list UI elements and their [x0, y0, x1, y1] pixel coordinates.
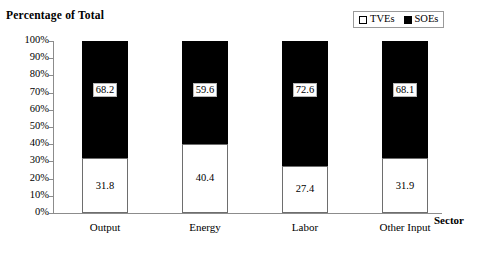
y-tick-70: 70%	[53, 93, 54, 94]
y-tick-0: 0%	[53, 213, 54, 214]
y-tick-label-80: 80%	[30, 68, 49, 80]
y-tick-40: 40%	[53, 144, 54, 145]
y-tick-30: 30%	[53, 161, 54, 162]
chart-title: Percentage of Total	[6, 9, 104, 21]
y-tick-label-60: 60%	[30, 103, 49, 115]
y-tick-label-40: 40%	[30, 137, 49, 149]
bar-segment-tves-labor[interactable]: 27.4	[282, 166, 328, 213]
x-category-label-energy: Energy	[165, 221, 245, 234]
y-tick-80: 80%	[53, 75, 54, 76]
bar-value-tves-other-input: 31.9	[393, 179, 417, 193]
bar-segment-tves-other-input[interactable]: 31.9	[382, 158, 428, 213]
bar-value-soes-other-input: 68.1	[393, 83, 417, 97]
y-tick-label-10: 10%	[30, 189, 49, 201]
y-tick-label-0: 0%	[35, 206, 49, 218]
bar-value-soes-energy: 59.6	[193, 83, 217, 97]
bar-value-tves-energy: 40.4	[193, 171, 217, 185]
x-category-label-output: Output	[65, 221, 145, 234]
legend-swatch-soes-icon	[404, 16, 412, 24]
legend-item-tves: TVEs	[359, 14, 395, 25]
y-tick-label-20: 20%	[30, 172, 49, 184]
y-tick-label-100: 100%	[25, 34, 50, 46]
x-category-label-other-input: Other Input	[365, 221, 445, 234]
y-tick-20: 20%	[53, 179, 54, 180]
bar-segment-soes-energy[interactable]: 59.6	[182, 41, 228, 144]
y-tick-10: 10%	[53, 196, 54, 197]
stacked-bar-chart: Percentage of Total TVEs SOEs 100% 90% 8…	[0, 0, 477, 253]
y-tick-50: 50%	[53, 127, 54, 128]
bar-segment-tves-energy[interactable]: 40.4	[182, 144, 228, 213]
y-tick-label-30: 30%	[30, 154, 49, 166]
legend-label-soes: SOEs	[415, 14, 439, 25]
bar-value-tves-output: 31.8	[93, 179, 117, 193]
x-category-label-labor: Labor	[265, 221, 345, 234]
bar-segment-soes-other-input[interactable]: 68.1	[382, 41, 428, 158]
y-tick-100: 100%	[53, 41, 54, 42]
bar-segment-soes-labor[interactable]: 72.6	[282, 41, 328, 166]
chart-legend: TVEs SOEs	[353, 11, 444, 28]
bar-value-soes-labor: 72.6	[293, 83, 317, 97]
plot-area: 100% 90% 80% 70% 60% 50% 40% 30%	[53, 41, 442, 213]
y-tick-60: 60%	[53, 110, 54, 111]
bar-value-tves-labor: 27.4	[293, 182, 317, 196]
legend-swatch-tves-icon	[359, 16, 367, 24]
legend-label-tves: TVEs	[370, 14, 395, 25]
y-tick-label-70: 70%	[30, 86, 49, 98]
y-tick-90: 90%	[53, 58, 54, 59]
x-axis-title: Sector	[434, 214, 464, 226]
legend-item-soes: SOEs	[404, 14, 439, 25]
bar-segment-soes-output[interactable]: 68.2	[82, 41, 128, 158]
bar-value-soes-output: 68.2	[93, 83, 117, 97]
y-tick-label-50: 50%	[30, 120, 49, 132]
bar-segment-tves-output[interactable]: 31.8	[82, 158, 128, 213]
x-axis-line	[53, 213, 442, 214]
y-tick-label-90: 90%	[30, 51, 49, 63]
